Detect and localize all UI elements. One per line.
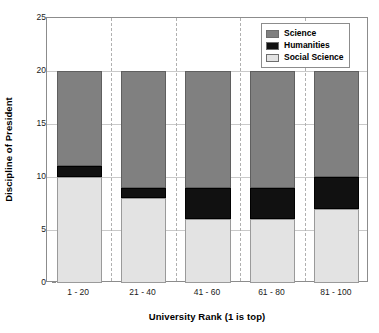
legend-label: Social Science [284, 53, 344, 62]
bar-segment[interactable] [250, 188, 295, 220]
stacked-bar-chart: Discipline of President 0510152025 1 - 2… [0, 0, 379, 333]
y-tick-label: 15 [20, 119, 46, 128]
legend-swatch-icon [266, 42, 279, 50]
y-tick-label: 25 [20, 13, 46, 22]
y-tick-label: 10 [20, 172, 46, 181]
bar-segment[interactable] [250, 71, 295, 188]
bar-segment[interactable] [121, 198, 166, 283]
bar-segment[interactable] [250, 219, 295, 283]
y-axis-ticks: 0510152025 [12, 0, 46, 333]
bar-group[interactable] [57, 18, 102, 281]
bar-segment[interactable] [185, 71, 230, 188]
legend-label: Science [284, 29, 316, 38]
y-tick-label: 20 [20, 66, 46, 75]
x-tick-label: 61 - 80 [239, 288, 303, 297]
bar-segment[interactable] [185, 219, 230, 283]
bar-segment[interactable] [185, 188, 230, 220]
y-tick-label: 0 [20, 278, 46, 287]
bar-group[interactable] [121, 18, 166, 281]
legend-item[interactable]: Science [266, 28, 344, 39]
legend-swatch-icon [266, 30, 279, 38]
bar-segment[interactable] [57, 177, 102, 283]
bar-segment[interactable] [57, 166, 102, 177]
bar-segment[interactable] [121, 71, 166, 188]
y-tick-label: 5 [20, 225, 46, 234]
bar-segment[interactable] [314, 209, 359, 283]
bar-segment[interactable] [314, 177, 359, 209]
x-tick-label: 81 - 100 [304, 288, 368, 297]
legend-swatch-icon [266, 54, 279, 62]
chart-legend: ScienceHumanitiesSocial Science [261, 23, 350, 68]
x-tick-label: 1 - 20 [46, 288, 110, 297]
x-tick-label: 21 - 40 [110, 288, 174, 297]
y-tick-mark [52, 282, 56, 283]
bar-segment[interactable] [57, 71, 102, 166]
x-axis-title: University Rank (1 is top) [45, 311, 369, 322]
x-axis-title-label: University Rank (1 is top) [149, 311, 266, 322]
legend-label: Humanities [284, 41, 330, 50]
legend-item[interactable]: Social Science [266, 52, 344, 63]
bar-segment[interactable] [121, 188, 166, 199]
bar-segment[interactable] [314, 71, 359, 177]
legend-item[interactable]: Humanities [266, 40, 344, 51]
x-tick-label: 41 - 60 [175, 288, 239, 297]
bar-group[interactable] [185, 18, 230, 281]
